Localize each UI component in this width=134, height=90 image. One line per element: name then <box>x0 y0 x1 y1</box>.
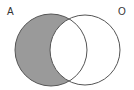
venn-diagram: A O <box>0 0 134 90</box>
circle-o <box>50 15 120 85</box>
set-label-a: A <box>7 6 14 17</box>
set-label-o: O <box>118 6 126 17</box>
